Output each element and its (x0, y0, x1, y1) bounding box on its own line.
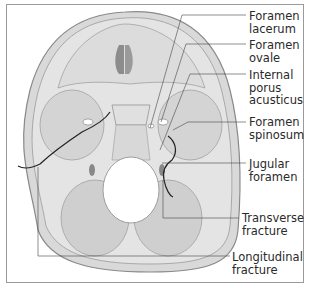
label-line: foramen (249, 170, 297, 184)
label-transverse-fracture: Transversefracture (242, 212, 304, 237)
label-longitudinal-fracture: Longitudinalfracture (232, 251, 303, 276)
label-line: lacerum (249, 22, 296, 36)
label-foramen-lacerum: Foramenlacerum (249, 10, 300, 35)
foramen-magnum (103, 157, 159, 223)
label-foramen-spinosum: Foramenspinosum (249, 116, 304, 141)
label-internal-porus-acusticus: Internalporusacusticus (249, 69, 303, 107)
label-line: acusticus (249, 93, 303, 107)
label-line: ovale (249, 51, 280, 65)
label-line: spinosum (249, 128, 304, 142)
label-line: fracture (232, 263, 278, 277)
label-line: fracture (242, 224, 288, 238)
label-jugular-foramen: Jugularforamen (249, 158, 297, 183)
label-foramen-ovale: Foramenovale (249, 39, 300, 64)
